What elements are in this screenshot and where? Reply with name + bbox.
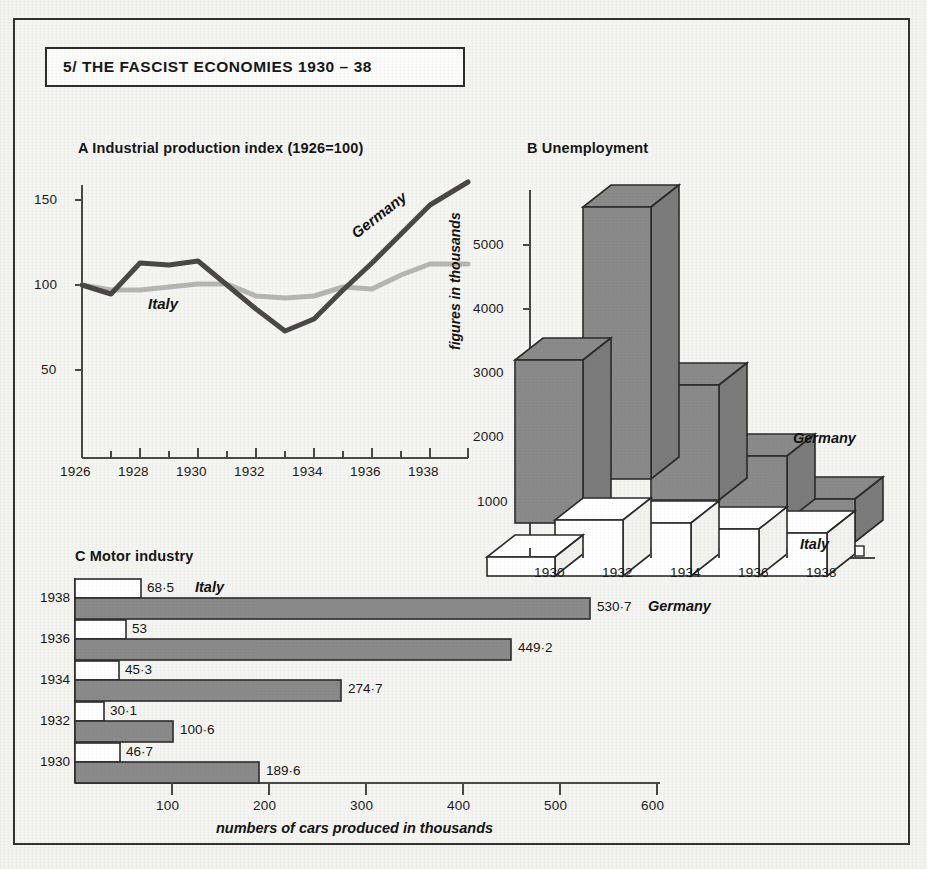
- chart-c-year-1934: 1934: [20, 672, 70, 687]
- chart-c-germany-bar-1938: [75, 598, 590, 619]
- chart-c-italy-value-1936: 53: [132, 621, 147, 636]
- chart-a-label-italy: Italy: [148, 295, 178, 312]
- chart-c-italy-bar-1934: [75, 661, 119, 680]
- chart-a-xtick-1930: 1930: [176, 464, 207, 479]
- chart-c-label-germany: Germany: [648, 598, 711, 614]
- chart-c-year-1932: 1932: [20, 713, 70, 728]
- chart-a-xtick-1926: 1926: [60, 464, 91, 479]
- chart-b-xtick-1938: 1938: [806, 565, 837, 580]
- chart-b-germany-bar-1930: [515, 338, 611, 523]
- chart-c-germany-value-1930: 189·6: [266, 763, 301, 778]
- chart-b-ytick-2000: 2000: [473, 429, 504, 444]
- chart-a-xtick-1936: 1936: [350, 464, 381, 479]
- chart-c-year-1930: 1930: [20, 754, 70, 769]
- chart-c-germany-bar-1934: [75, 680, 341, 701]
- chart-c-xtick-200: 200: [253, 798, 276, 813]
- chart-c-germany-value-1934: 274·7: [348, 681, 383, 696]
- chart-a-italy-line: [82, 264, 468, 298]
- chart-c-italy-bar-1930: [75, 743, 120, 762]
- chart-c-xtick-500: 500: [544, 798, 567, 813]
- chart-c-italy-bar-1932: [75, 702, 104, 721]
- title-box: 5/ THE FASCIST ECONOMIES 1930 – 38: [45, 47, 465, 87]
- chart-b-ytick-4000: 4000: [473, 301, 504, 316]
- chart-a-xtick-1938: 1938: [408, 464, 439, 479]
- page-title: 5/ THE FASCIST ECONOMIES 1930 – 38: [47, 58, 372, 76]
- chart-b-plot: [455, 140, 910, 580]
- chart-c-xtick-600: 600: [641, 798, 664, 813]
- chart-b-ytick-5000: 5000: [473, 237, 504, 252]
- chart-c-axis-title: numbers of cars produced in thousands: [216, 820, 493, 836]
- chart-a-xtick-1928: 1928: [118, 464, 149, 479]
- chart-c-italy-bar-1938: [75, 579, 141, 598]
- chart-c-xtick-300: 300: [350, 798, 373, 813]
- chart-a-ytick-150: 150: [34, 192, 57, 207]
- chart-c-year-1938: 1938: [20, 590, 70, 605]
- chart-b-unemployment: B Unemployment: [455, 140, 910, 580]
- chart-c-germany-value-1936: 449·2: [518, 640, 553, 655]
- chart-b-ytick-3000: 3000: [473, 365, 504, 380]
- chart-b-label-italy: Italy: [800, 536, 829, 552]
- chart-a-xtick-1934: 1934: [292, 464, 323, 479]
- chart-c-germany-bar-1936: [75, 639, 511, 660]
- chart-c-label-italy: Italy: [195, 579, 224, 595]
- chart-b-ytick-1000: 1000: [477, 494, 508, 509]
- chart-c-italy-value-1930: 46·7: [126, 744, 153, 759]
- chart-c-xtick-400: 400: [447, 798, 470, 813]
- chart-c-germany-value-1938: 530·7: [597, 599, 632, 614]
- chart-c-year-1936: 1936: [20, 631, 70, 646]
- chart-c-italy-bar-1936: [75, 620, 126, 639]
- chart-a-germany-line: [82, 182, 468, 331]
- chart-c-motor-industry: C Motor industry: [20, 548, 720, 833]
- chart-c-italy-value-1934: 45·3: [125, 662, 152, 677]
- chart-a-xtick-1932: 1932: [234, 464, 265, 479]
- infographic-page: 5/ THE FASCIST ECONOMIES 1930 – 38 A Ind…: [0, 0, 927, 869]
- chart-c-italy-value-1932: 30·1: [110, 703, 137, 718]
- chart-a-ytick-50: 50: [41, 362, 56, 377]
- chart-a-industrial-production: A Industrial production index (1926=100): [30, 140, 480, 480]
- chart-c-germany-bar-1930: [75, 762, 259, 783]
- chart-c-germany-value-1932: 100·6: [180, 722, 215, 737]
- chart-b-xtick-1936: 1936: [738, 565, 769, 580]
- chart-a-plot: [30, 140, 480, 480]
- chart-b-label-germany: Germany: [793, 430, 856, 446]
- chart-c-xtick-100: 100: [156, 798, 179, 813]
- chart-c-germany-bar-1932: [75, 721, 173, 742]
- chart-c-italy-value-1938: 68·5: [147, 580, 174, 595]
- chart-a-ytick-100: 100: [34, 277, 57, 292]
- chart-b-axis-title: figures in thousands: [447, 212, 463, 350]
